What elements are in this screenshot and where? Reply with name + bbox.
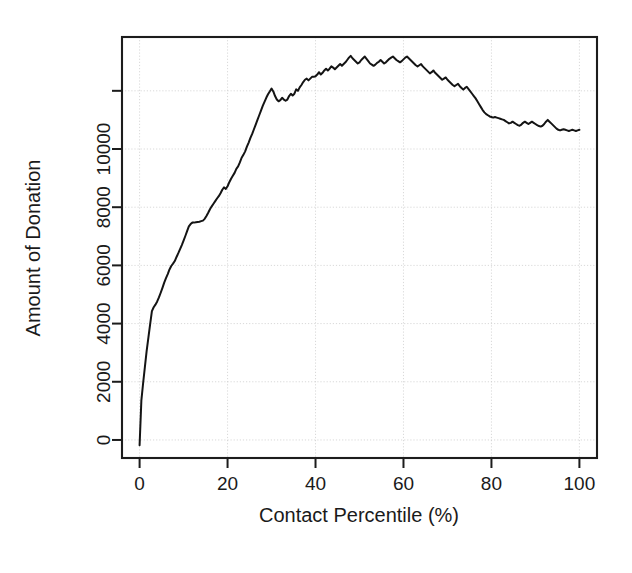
y-tick-labels: 0200040006000800010000: [94, 123, 115, 446]
plot-frame: [122, 37, 597, 458]
y-tick-label: 0: [94, 435, 115, 446]
x-tick-label: 40: [305, 473, 326, 494]
x-axis-title: Contact Percentile (%): [259, 504, 459, 526]
y-tick-label: 10000: [94, 123, 115, 176]
x-tick-label: 20: [217, 473, 238, 494]
y-tick-label: 4000: [94, 302, 115, 344]
donation-line-chart: 020406080100 0200040006000800010000 Cont…: [0, 0, 632, 573]
x-tick-label: 100: [564, 473, 596, 494]
x-tick-label: 0: [134, 473, 145, 494]
y-tick-label: 8000: [94, 186, 115, 228]
x-tick-label: 60: [393, 473, 414, 494]
y-tick-label: 2000: [94, 361, 115, 403]
x-tick-label: 80: [481, 473, 502, 494]
series-line-amount-of-donation: [140, 56, 580, 445]
y-axis-title: Amount of Donation: [22, 160, 44, 337]
tick-marks: [112, 91, 579, 468]
chart-figure: 020406080100 0200040006000800010000 Cont…: [0, 0, 632, 573]
x-tick-labels: 020406080100: [134, 473, 595, 494]
grid-lines: [122, 37, 597, 458]
y-tick-label: 6000: [94, 244, 115, 286]
